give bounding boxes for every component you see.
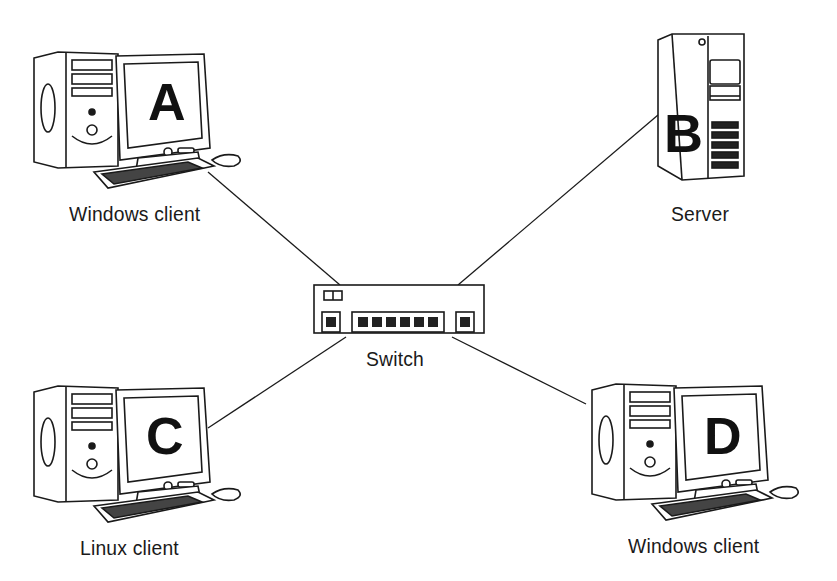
workstation-a-label: Windows client: [69, 202, 200, 226]
server-b-icon: B: [652, 30, 752, 190]
server-b-label: Server: [671, 202, 729, 226]
node-letter-c: C: [146, 407, 184, 465]
workstation-c-label: Linux client: [80, 536, 179, 560]
edge-b-switch: [458, 115, 658, 285]
node-letter-a: A: [148, 73, 186, 131]
edge-d-switch: [452, 337, 586, 404]
workstation-a-icon: A: [28, 48, 253, 193]
network-diagram: A Windows client B Server: [0, 0, 837, 581]
switch-label: Switch: [366, 347, 424, 371]
workstation-c-icon: C: [28, 382, 253, 527]
switch-icon: [312, 283, 488, 335]
node-letter-d: D: [704, 407, 742, 465]
node-letter-b: B: [664, 103, 703, 163]
workstation-d-label: Windows client: [628, 534, 759, 558]
workstation-d-icon: D: [586, 380, 811, 525]
